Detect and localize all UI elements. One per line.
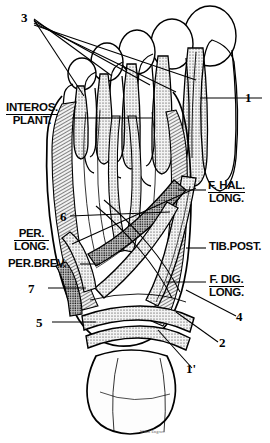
label-per-line2: LONG.: [14, 240, 49, 253]
label-per-line1: PER.: [19, 228, 45, 240]
callout-number-6: 6: [60, 209, 67, 225]
callout-number-2: 2: [219, 335, 226, 351]
callout-number-3: 3: [21, 10, 28, 26]
label-peroneus-brevis: PER.BREV.: [8, 258, 66, 270]
heel-pad: [87, 350, 175, 434]
toe-pads: [68, 6, 236, 90]
label-interos-line2: PLANT.: [6, 114, 58, 127]
label-flexor-digitorum-longus: F. DIG. LONG.: [209, 274, 244, 298]
label-flexor-hallucis-longus: F. HAL. LONG.: [208, 180, 245, 204]
callout-number-5: 5: [36, 315, 43, 331]
callout-number-4: 4: [236, 309, 243, 325]
label-interosseous-plantar: INTEROS. PLANT.: [6, 102, 58, 126]
label-fhal-line1: F. HAL.: [208, 180, 245, 192]
label-fdig-line2: LONG.: [209, 286, 244, 299]
label-fdig-line1: F. DIG.: [210, 274, 244, 286]
artist-signature: Wood Engrav.: [140, 429, 165, 434]
callout-number-1: 1: [245, 90, 252, 106]
callout-number-7: 7: [28, 281, 35, 297]
foot-dissection-illustration: [0, 0, 270, 443]
label-peroneus-longus: PER. LONG.: [14, 228, 49, 252]
label-fhal-line2: LONG.: [208, 192, 245, 205]
anatomical-figure: INTEROS. PLANT. PER. LONG. PER.BREV. F. …: [0, 0, 270, 443]
label-interos-line1: INTEROS.: [6, 102, 58, 114]
callout-number-1-prime: 1': [186, 361, 196, 377]
label-tibialis-posterior: TIB.POST.: [209, 241, 261, 253]
